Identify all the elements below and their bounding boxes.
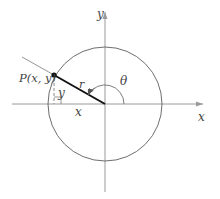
diagram-graphics xyxy=(0,0,220,199)
theta-arc xyxy=(89,85,125,104)
vertical-leg-label: y xyxy=(58,87,65,99)
horizontal-leg-label: x xyxy=(75,106,82,118)
point-label: P(x, y) xyxy=(19,73,56,85)
unit-circle-diagram: y x P(x, y) r θ x y xyxy=(0,0,220,199)
theta-label: θ xyxy=(120,75,127,87)
radius-label: r xyxy=(79,79,84,90)
y-axis-label: y xyxy=(97,8,104,20)
x-axis-label: x xyxy=(198,111,205,123)
